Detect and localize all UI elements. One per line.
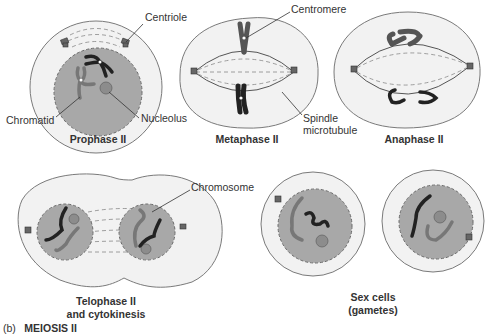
- title-prophase-ii: Prophase II: [70, 133, 127, 145]
- prophase-ii-cell: Centriole Chromatid Nucleolus Prophase I…: [6, 11, 187, 153]
- nucleolus: [69, 214, 79, 224]
- label-centromere: Centromere: [291, 3, 347, 15]
- meiosis-ii-diagram: Centriole Chromatid Nucleolus Prophase I…: [0, 0, 489, 336]
- centriole-icon: [275, 196, 281, 202]
- metaphase-ii-cell: Centromere Spindle microtubule Metaphase…: [180, 3, 358, 145]
- figure-caption: (b) MEIOSIS II: [3, 318, 77, 335]
- centriole-icon: [351, 66, 357, 72]
- gamete-cell-1: [261, 172, 365, 276]
- nucleus: [399, 185, 473, 259]
- title-sex-cells-line1: Sex cells: [351, 291, 396, 303]
- centriole-icon: [180, 224, 186, 229]
- centriole-icon: [191, 68, 197, 74]
- caption-prefix: (b): [3, 322, 16, 334]
- title-metaphase-ii: Metaphase II: [215, 133, 278, 145]
- label-spindle: Spindle: [303, 112, 338, 124]
- centriole-icon: [467, 63, 473, 69]
- nucleolus: [434, 211, 446, 223]
- nucleolus: [100, 82, 112, 94]
- nucleolus: [316, 235, 328, 247]
- label-microtubule: microtubule: [303, 124, 357, 136]
- label-centriole: Centriole: [145, 11, 187, 23]
- centriole-icon: [466, 234, 472, 240]
- label-nucleolus: Nucleolus: [141, 112, 187, 124]
- title-telophase-ii-line2: and cytokinesis: [67, 308, 146, 320]
- label-chromatid: Chromatid: [6, 114, 55, 126]
- title-anaphase-ii: Anaphase II: [385, 133, 444, 145]
- telophase-ii-cell: Chromosome Telophase II and cytokinesis: [18, 174, 254, 320]
- centriole-icon: [25, 227, 31, 233]
- label-chromosome: Chromosome: [191, 181, 254, 193]
- caption-title: MEIOSIS II: [24, 322, 77, 334]
- title-telophase-ii-line1: Telophase II: [76, 295, 136, 307]
- centriole-icon: [291, 67, 297, 73]
- title-sex-cells-line2: (gametes): [348, 304, 398, 316]
- gamete-cell-2: Sex cells (gametes): [348, 170, 484, 316]
